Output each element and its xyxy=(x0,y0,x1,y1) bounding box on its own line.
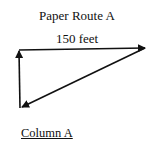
route-triangle xyxy=(0,0,154,147)
column-caption: Column A xyxy=(21,126,73,141)
east-arrow xyxy=(19,48,145,50)
southwest-arrow xyxy=(22,48,145,107)
north-arrow xyxy=(19,51,20,108)
